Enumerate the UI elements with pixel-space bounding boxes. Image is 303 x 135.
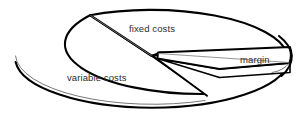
slice-label-fixed-costs: fixed costs [129, 23, 175, 34]
pie-chart: fixed costs variable costs margin [0, 0, 303, 135]
pie-chart-graphic [0, 0, 303, 135]
slice-label-variable-costs: variable costs [67, 72, 126, 83]
slice-label-margin: margin [240, 54, 270, 65]
